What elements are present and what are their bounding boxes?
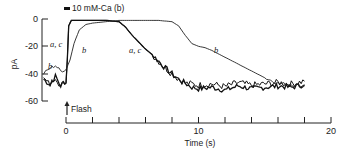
x-axis: 0 10 20 Time (s): [63, 117, 336, 148]
y-tick-minus60: -60: [25, 96, 38, 106]
legend: 10 mM-Ca (b): [64, 3, 125, 13]
curve-label-ac-mid: a, c: [129, 45, 142, 55]
x-tick-10: 10: [193, 126, 203, 136]
y-axis-title: pA: [9, 58, 19, 69]
curve-label-b-rise: b: [82, 45, 86, 55]
legend-label: 10 mM-Ca (b): [72, 3, 125, 13]
x-axis-title: Time (s): [185, 138, 216, 148]
y-tick-minus40: -40: [25, 69, 38, 79]
curve-label-ac-left: a, c: [50, 39, 63, 49]
flash-label: Flash: [71, 104, 92, 114]
y-tick-minus20: -20: [25, 41, 38, 51]
plot-area: [44, 20, 305, 92]
curve-label-b-left: b: [48, 61, 52, 71]
flash-arrowhead-icon: [65, 101, 70, 106]
y-tick-0: 0: [33, 14, 38, 24]
x-tick-0: 0: [63, 126, 68, 136]
curve-label-b-mid: b: [214, 45, 218, 55]
flash-annotation: Flash: [65, 101, 93, 115]
chart: 0 -20 -40 -60 pA 0 10 20 Time (s) Flash …: [0, 0, 341, 150]
x-tick-20: 20: [326, 126, 336, 136]
legend-swatch-icon: [64, 7, 70, 10]
curve-a-c: [44, 20, 305, 92]
y-axis: 0 -20 -40 -60 pA: [9, 14, 48, 106]
